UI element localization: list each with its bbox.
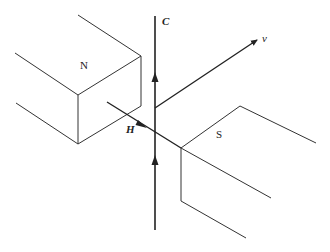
south-magnet: [181, 106, 316, 238]
current-arrow-lower: [152, 155, 159, 165]
velocity-label: v: [262, 33, 267, 44]
magnet-diagram: N S C H v: [0, 0, 330, 252]
field-label: H: [126, 124, 135, 135]
south-pole-label: S: [216, 129, 222, 140]
diagram-lines: [0, 0, 330, 252]
velocity-vector: [155, 40, 257, 108]
north-magnet: [15, 15, 141, 144]
north-pole-label: N: [80, 60, 88, 71]
field-vector: [107, 102, 181, 148]
current-arrow-upper: [152, 72, 159, 82]
conductor-label: C: [162, 16, 169, 27]
